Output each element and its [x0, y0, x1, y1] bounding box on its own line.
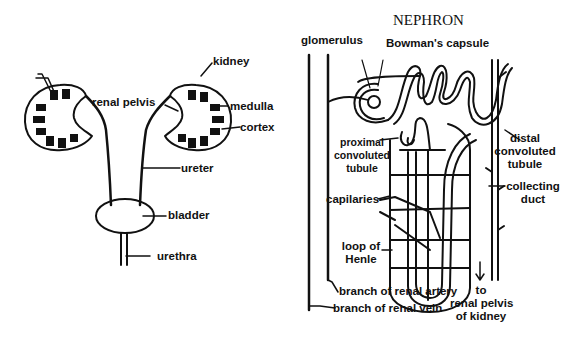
label-glomerulus: glomerulus — [301, 34, 363, 47]
label-renal-pelvis: renal pelvis — [92, 96, 155, 109]
label-distal-convoluted-tubule: distal convoluted tubule — [490, 132, 560, 171]
label-medulla: medulla — [230, 100, 273, 113]
label-urethra: urethra — [157, 250, 197, 263]
right-renal-pelvis-ureter — [140, 96, 170, 205]
label-collecting-duct: collecting duct — [503, 180, 563, 206]
label-branch-renal-vein: branch of renal vein — [333, 302, 442, 315]
down-arrow — [476, 262, 484, 280]
label-loop-of-henle: loop of Henle — [336, 240, 386, 266]
label-line: tubule — [332, 162, 392, 175]
artery-leader — [328, 280, 338, 292]
renal-vessels — [309, 55, 328, 310]
diagram-canvas: kidney renal pelvis medulla cortex urete… — [0, 0, 574, 341]
label-bladder: bladder — [168, 209, 210, 222]
nephron-title: NEPHRON — [393, 12, 464, 29]
label-line: Henle — [336, 253, 386, 266]
left-renal-pelvis-ureter — [86, 96, 111, 205]
label-line: proximal — [332, 136, 392, 149]
label-line: renal pelvis — [450, 297, 512, 310]
left-kidney-medulla — [33, 89, 78, 148]
label-bowmans-capsule: Bowman's capsule — [386, 37, 489, 50]
label-capilaries: capilaries — [326, 193, 379, 206]
label-line: loop of — [336, 240, 386, 253]
glomerulus-leader — [362, 60, 370, 88]
urethra — [121, 233, 127, 265]
label-line: collecting — [503, 180, 563, 193]
label-cortex: cortex — [240, 121, 275, 134]
label-line: convoluted — [490, 145, 560, 158]
label-proximal-convoluted-tubule: proximal convoluted tubule — [332, 136, 392, 175]
label-ureter: ureter — [181, 162, 214, 175]
label-to-renal-pelvis: to renal pelvis of kidney — [450, 284, 512, 323]
label-branch-renal-artery: branch of renal artery — [339, 285, 457, 298]
label-line: duct — [503, 193, 563, 206]
label-line: to — [450, 284, 512, 297]
vein-leader — [309, 306, 335, 308]
right-kidney-medulla — [178, 90, 224, 148]
bowmans-leader — [378, 60, 383, 86]
label-line: distal — [490, 132, 560, 145]
label-line: tubule — [490, 158, 560, 171]
label-line: convoluted — [332, 149, 392, 162]
loop-of-henle — [408, 134, 476, 306]
bowmans-capsule — [354, 84, 388, 123]
label-kidney: kidney — [213, 55, 249, 68]
label-line: of kidney — [450, 310, 512, 323]
